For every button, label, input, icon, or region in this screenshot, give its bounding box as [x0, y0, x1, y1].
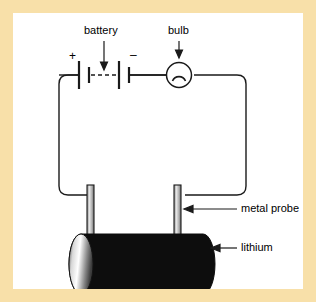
label-lithium: lithium	[241, 242, 273, 253]
metal-probe-left	[87, 185, 94, 237]
lithium-callout-arrow	[211, 245, 237, 252]
label-bulb: bulb	[168, 25, 189, 36]
diagram-root: battery bulb metal probe lithium + –	[0, 0, 316, 302]
battery-pointer-arrow	[101, 41, 108, 70]
metal-probe-callout-arrow	[184, 206, 237, 213]
bulb-pointer-arrow	[176, 41, 183, 58]
label-battery: battery	[84, 25, 118, 36]
battery-plus-sign: +	[69, 50, 76, 62]
diagram-canvas: battery bulb metal probe lithium + –	[13, 13, 303, 289]
battery-symbol	[59, 61, 167, 89]
metal-probe-right	[174, 185, 181, 237]
battery-minus-sign: –	[130, 49, 137, 61]
label-metal-probe: metal probe	[241, 203, 299, 214]
lithium-cylinder	[69, 234, 215, 289]
bulb-symbol	[167, 63, 192, 88]
